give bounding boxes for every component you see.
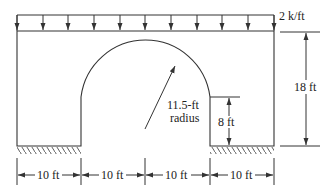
span-label-3: 10 ft [163, 169, 189, 181]
span-label-4: 10 ft [228, 169, 254, 181]
right-fixed-support [210, 147, 274, 154]
support-height-label: 8 ft [216, 116, 236, 128]
load-label: 2 k/ft [279, 10, 305, 22]
left-fixed-support [17, 147, 81, 154]
radius-label-line1: 11.5-ft [167, 99, 199, 111]
distributed-load [17, 15, 274, 31]
radius-label-line2: radius [170, 112, 199, 124]
span-label-1: 10 ft [35, 169, 61, 181]
span-label-2: 10 ft [99, 169, 125, 181]
total-height-label: 18 ft [292, 81, 318, 93]
